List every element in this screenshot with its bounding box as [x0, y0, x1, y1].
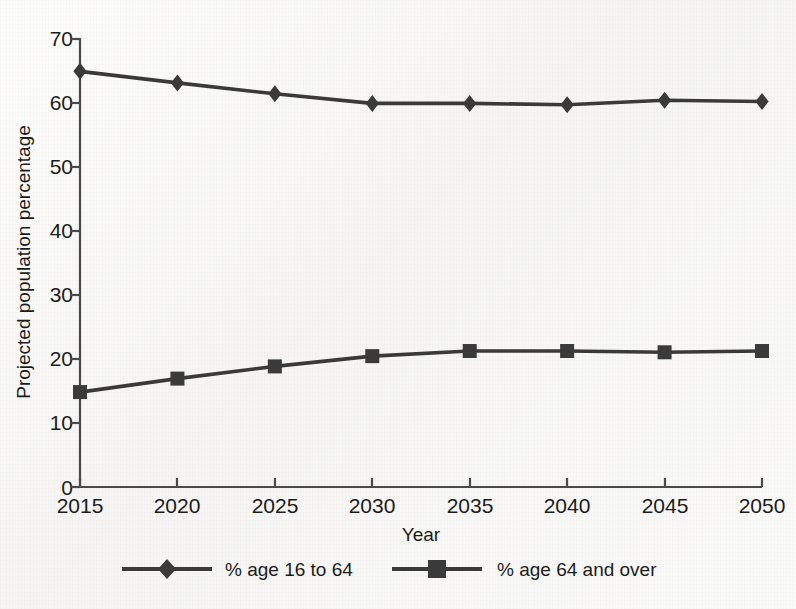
diamond-marker-icon — [463, 95, 476, 112]
x-tick-label: 2045 — [642, 494, 689, 517]
diamond-marker-icon — [158, 559, 176, 579]
series-layer — [73, 63, 769, 399]
series-2 — [73, 344, 769, 399]
diamond-marker-icon — [561, 96, 574, 113]
x-tick-label: 2030 — [349, 494, 396, 517]
square-marker-icon — [365, 349, 379, 363]
line-chart: Projected population percentage 0 10 20 … — [0, 0, 796, 609]
y-tick-labels: 0 10 20 30 40 50 60 70 — [50, 27, 73, 499]
square-marker-icon — [658, 345, 672, 359]
x-tick-label: 2025 — [252, 494, 299, 517]
legend-label: % age 64 and over — [497, 559, 657, 580]
legend-label: % age 16 to 64 — [225, 559, 353, 580]
y-tick-label: 70 — [50, 27, 73, 50]
x-tick-label: 2015 — [57, 494, 104, 517]
square-marker-icon — [170, 372, 184, 386]
diamond-marker-icon — [755, 93, 768, 110]
x-tick-label: 2040 — [544, 494, 591, 517]
y-tick-label: 60 — [50, 91, 73, 114]
diamond-marker-icon — [658, 92, 671, 109]
y-tick-label: 40 — [50, 219, 73, 242]
y-tick-label: 30 — [50, 283, 73, 306]
x-tick-label: 2035 — [447, 494, 494, 517]
y-tick-label: 50 — [50, 155, 73, 178]
x-axis-title-text: Year — [402, 524, 441, 545]
square-marker-icon — [560, 344, 574, 358]
square-marker-icon — [268, 359, 282, 373]
y-tick-label: 10 — [50, 411, 73, 434]
diamond-marker-icon — [73, 63, 86, 80]
legend-item-age-16-to-64: % age 16 to 64 — [122, 559, 353, 580]
x-tick-labels: 2015 2020 2025 2030 2035 2040 2045 2050 — [57, 494, 786, 517]
y-axis-title-text: Projected population percentage — [13, 125, 34, 399]
diamond-marker-icon — [366, 95, 379, 112]
square-marker-icon — [463, 344, 477, 358]
legend-item-age-64-and-over: % age 64 and over — [392, 559, 657, 580]
x-tick-label: 2020 — [154, 494, 201, 517]
square-marker-icon — [428, 560, 446, 578]
square-marker-icon — [755, 344, 769, 358]
y-axis-title: Projected population percentage — [13, 125, 34, 399]
chart-canvas: Projected population percentage 0 10 20 … — [0, 0, 796, 609]
diamond-marker-icon — [171, 74, 184, 91]
diamond-marker-icon — [268, 85, 281, 102]
x-tick-label: 2050 — [739, 494, 786, 517]
chart-legend: % age 16 to 64 % age 64 and over — [122, 559, 657, 580]
x-axis — [80, 478, 762, 487]
y-tick-label: 20 — [50, 347, 73, 370]
square-marker-icon — [73, 385, 87, 399]
series-1 — [73, 63, 768, 113]
